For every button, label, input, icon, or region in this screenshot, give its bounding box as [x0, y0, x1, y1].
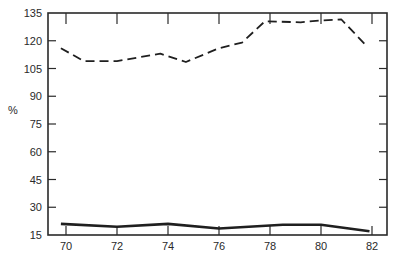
x-tick-label: 74	[162, 240, 174, 252]
series-group	[61, 20, 370, 232]
y-tick-label: 45	[30, 174, 42, 186]
plot-frame	[48, 13, 387, 235]
solid-series-line	[61, 224, 370, 231]
y-tick-label: 30	[30, 201, 42, 213]
x-tick-label: 78	[264, 240, 276, 252]
y-axis-label: %	[8, 104, 18, 116]
y-tick-label: 15	[30, 229, 42, 241]
y-tick-label: 105	[24, 63, 42, 75]
y-tick-label: 60	[30, 146, 42, 158]
x-tick-label: 76	[213, 240, 225, 252]
x-tick-label: 72	[111, 240, 123, 252]
y-tick-label: 120	[24, 35, 42, 47]
y-tick-label: 75	[30, 118, 42, 130]
x-tick-label: 82	[366, 240, 378, 252]
dashed-series-line	[61, 20, 367, 63]
y-tick-label: 135	[24, 7, 42, 19]
x-tick-label: 70	[60, 240, 72, 252]
x-tick-label: 80	[315, 240, 327, 252]
y-tick-label: 90	[30, 90, 42, 102]
line-chart: 153045607590105120135 70727476788082 %	[0, 0, 397, 260]
chart-canvas: 153045607590105120135 70727476788082 %	[0, 0, 397, 260]
y-axis-ticks: 153045607590105120135	[24, 7, 387, 241]
x-axis-ticks: 70727476788082	[60, 13, 378, 252]
